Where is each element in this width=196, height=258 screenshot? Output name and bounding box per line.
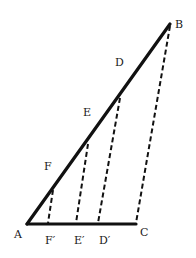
side-bc-dashed [136, 26, 170, 223]
label-e: E [83, 106, 91, 119]
segment-dd-prime [98, 98, 120, 223]
label-f: F [44, 160, 52, 173]
label-c: C [140, 226, 148, 239]
label-a: A [13, 228, 23, 241]
label-f-prime: F′ [45, 234, 56, 247]
label-b: B [175, 18, 183, 31]
triangle-diagram: B D E F A F′ E′ D′ C [0, 0, 196, 258]
segment-ee-prime [76, 144, 88, 223]
side-ab [27, 24, 170, 224]
label-d-prime: D′ [99, 234, 111, 247]
label-e-prime: E′ [74, 234, 85, 247]
label-d: D [115, 56, 124, 69]
